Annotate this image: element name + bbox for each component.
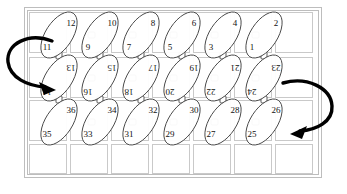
cell-label-high: 28	[231, 105, 241, 115]
cell-label-low: 3	[209, 42, 214, 52]
cell-label-high: 4	[233, 18, 238, 28]
cell-label-low: 27	[207, 129, 217, 139]
cell-label-low: 23	[271, 63, 281, 73]
cell-label-high: 16	[83, 87, 93, 97]
grid-row-3	[30, 145, 313, 174]
cell-label-high: 24	[247, 87, 257, 97]
cell-label-high: 18	[124, 87, 134, 97]
cell-label-high: 36	[67, 105, 77, 115]
cell-label-low: 9	[86, 42, 91, 52]
cell-label-high: 34	[108, 105, 118, 115]
grid-cell	[30, 145, 67, 174]
arrow-right-stroke	[283, 81, 332, 131]
cell-label-high: 26	[272, 105, 282, 115]
grid-cell	[276, 145, 313, 174]
cell-label-low: 7	[127, 42, 132, 52]
grid-cell	[71, 145, 108, 174]
cell-label-low: 19	[189, 63, 199, 73]
cell-label-high: 12	[67, 18, 76, 28]
cell-label-low: 15	[107, 63, 117, 73]
diagram-canvas: 11 12 9 10 7 8 5 6 3 4	[0, 0, 347, 194]
cell-label-high: 20	[165, 87, 175, 97]
cell-label-high: 8	[151, 18, 156, 28]
arrow-right-head	[290, 126, 307, 139]
cell-label-low: 31	[125, 129, 134, 139]
cell-label-high: 32	[149, 105, 158, 115]
ellipse-row-2: 35 36 33 34 31 32 29 30 27 28	[34, 93, 290, 151]
grid-cell	[112, 145, 149, 174]
cell-label-high: 30	[190, 105, 200, 115]
arrow-right-turnaround	[283, 81, 332, 139]
cell-label-low: 29	[166, 129, 176, 139]
cell-label-low: 21	[231, 63, 240, 73]
grid-cell	[194, 145, 231, 174]
cell-label-low: 33	[84, 129, 94, 139]
cell-label-low: 17	[148, 63, 158, 73]
cell-label-low: 25	[248, 129, 258, 139]
cell-label-low: 11	[43, 42, 52, 52]
grid-cell	[235, 145, 272, 174]
cell-label-low: 1	[250, 42, 255, 52]
cell-label-high: 10	[108, 18, 118, 28]
grid-cell	[153, 145, 190, 174]
cell-label-high: 6	[192, 18, 197, 28]
cell-label-low: 13	[66, 63, 76, 73]
cell-label-low: 5	[168, 42, 173, 52]
cell-label-high: 22	[207, 87, 216, 97]
cell-label-high: 2	[274, 18, 279, 28]
cell-label-low: 35	[43, 129, 53, 139]
